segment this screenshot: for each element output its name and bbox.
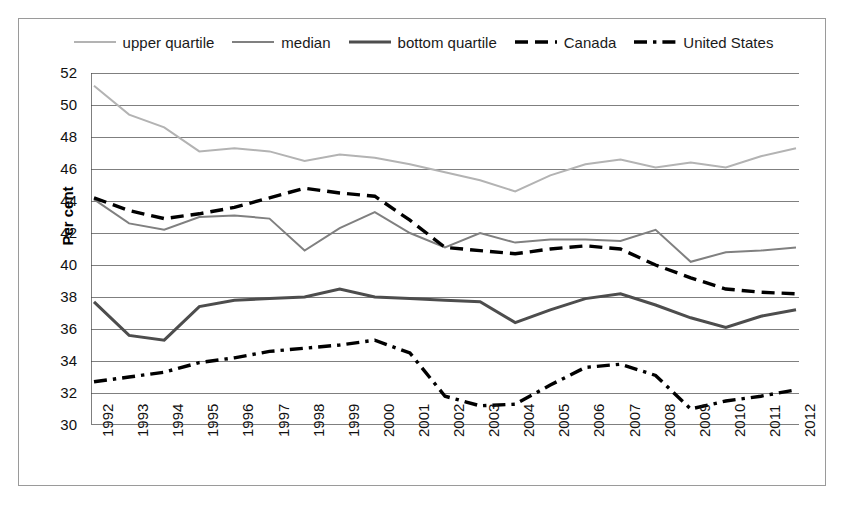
x-tick-label-2012: 2012 — [802, 404, 817, 437]
x-tick-label-2001: 2001 — [416, 404, 431, 437]
y-tick-label-34: 34 — [47, 353, 77, 368]
y-tick-label-38: 38 — [47, 289, 77, 304]
y-tick-label-48: 48 — [47, 129, 77, 144]
legend-label: Canada — [564, 35, 617, 50]
plot-area — [91, 73, 799, 425]
y-tick-label-36: 36 — [47, 321, 77, 336]
x-tick-label-1997: 1997 — [276, 404, 291, 437]
x-tick-label-2007: 2007 — [627, 404, 642, 437]
series-line-canada — [94, 188, 796, 294]
legend-entry-united-states[interactable]: United States — [633, 35, 773, 50]
line-swatch-dashed-black — [514, 36, 558, 48]
x-tick-label-2011: 2011 — [767, 405, 782, 437]
legend-label: upper quartile — [123, 35, 215, 50]
y-axis-title: Per cent — [59, 166, 76, 266]
legend-label: bottom quartile — [398, 35, 497, 50]
series-line-united-states — [94, 340, 796, 409]
legend-entry-bottom-quartile[interactable]: bottom quartile — [348, 35, 497, 50]
x-tick-label-1995: 1995 — [205, 404, 220, 437]
x-tick-label-1994: 1994 — [170, 404, 185, 437]
chart-frame: upper quartilemedianbottom quartileCanad… — [18, 18, 826, 486]
y-tick-label-30: 30 — [47, 417, 77, 432]
line-swatch-dash-dot-black — [633, 36, 677, 48]
legend-label: median — [281, 35, 330, 50]
y-tick-label-32: 32 — [47, 385, 77, 400]
x-tick-label-1993: 1993 — [135, 404, 150, 437]
x-tick-label-2008: 2008 — [662, 404, 677, 437]
x-tick-label-2010: 2010 — [732, 404, 747, 437]
plot-svg — [91, 73, 799, 425]
y-tick-label-44: 44 — [47, 193, 77, 208]
x-tick-label-1999: 1999 — [346, 404, 361, 437]
line-swatch-gray — [231, 36, 275, 48]
y-tick-label-40: 40 — [47, 257, 77, 272]
legend-entry-median[interactable]: median — [231, 35, 330, 50]
x-tick-label-1998: 1998 — [311, 404, 326, 437]
chart-legend: upper quartilemedianbottom quartileCanad… — [19, 29, 827, 55]
x-tick-label-1996: 1996 — [240, 404, 255, 437]
x-tick-label-2006: 2006 — [591, 404, 606, 437]
line-swatch-dark-gray — [348, 36, 392, 48]
y-tick-label-50: 50 — [47, 97, 77, 112]
x-tick-label-2000: 2000 — [381, 404, 396, 437]
y-tick-label-42: 42 — [47, 225, 77, 240]
line-swatch-light-gray — [73, 36, 117, 48]
x-tick-label-1992: 1992 — [100, 404, 115, 437]
x-tick-label-2002: 2002 — [451, 404, 466, 437]
y-tick-label-52: 52 — [47, 65, 77, 80]
series-line-upper-quartile — [94, 86, 796, 192]
x-tick-label-2003: 2003 — [486, 404, 501, 437]
y-tick-label-46: 46 — [47, 161, 77, 176]
legend-entry-canada[interactable]: Canada — [514, 35, 617, 50]
series-line-median — [94, 199, 796, 261]
legend-entry-upper-quartile[interactable]: upper quartile — [73, 35, 215, 50]
x-tick-label-2004: 2004 — [521, 404, 536, 437]
x-tick-label-2009: 2009 — [697, 404, 712, 437]
legend-label: United States — [683, 35, 773, 50]
x-tick-label-2005: 2005 — [556, 404, 571, 437]
